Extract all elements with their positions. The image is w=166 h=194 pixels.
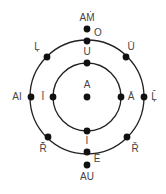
node-label-r-bar: Ř̄ [39, 144, 46, 154]
node-dot-a-bar [118, 94, 125, 101]
node-label-l-bar: Ļ̄ [151, 92, 157, 102]
node-label-i-bar: Ī [42, 92, 45, 102]
node-dot-i [84, 128, 91, 135]
node-label-ai: AI [12, 92, 21, 102]
node-label-e: Ē [94, 154, 101, 164]
node-label-a: A [84, 80, 91, 90]
node-label-a-bar: Ā [128, 92, 135, 102]
node-dot-au [84, 162, 91, 169]
node-dot-l-dot [44, 54, 51, 61]
node-dot-u [84, 60, 91, 67]
node-dot-u-bar [123, 54, 130, 61]
node-dot-r-bar [45, 134, 52, 141]
node-label-au: AU [80, 172, 94, 182]
node-label-i: I [86, 136, 89, 146]
node-dot-l-bar [141, 94, 148, 101]
node-dot-ai [28, 94, 35, 101]
node-label-u: U [83, 47, 90, 57]
node-dot-e [84, 149, 91, 156]
node-dot-i-bar [50, 94, 57, 101]
node-label-l-dot: Ļ [34, 42, 40, 52]
diagram-canvas [0, 0, 166, 194]
node-dot-a [84, 94, 91, 101]
node-label-o: O [94, 28, 102, 38]
sanskrit-vowel-circle-diagram: AṀOUAIĒAUĻŪAIĪĀĻ̄Ř̄Ř [0, 0, 166, 194]
node-dot-r-dot [124, 134, 131, 141]
node-label-u-bar: Ū [127, 42, 134, 52]
node-dot-am [84, 26, 91, 33]
node-label-am: AṀ [80, 13, 95, 23]
node-dot-o [84, 38, 91, 45]
node-label-r-dot: Ř [131, 144, 138, 154]
